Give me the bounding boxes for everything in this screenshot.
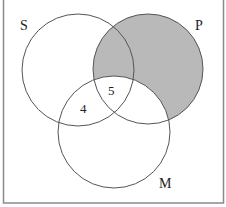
set-label-m: M (159, 176, 172, 191)
region-count-s-m: 4 (80, 101, 87, 116)
venn-diagram: S P M 4 5 (0, 0, 226, 207)
set-label-s: S (20, 18, 28, 33)
region-count-s-p-m: 5 (108, 83, 115, 98)
set-label-p: P (195, 18, 203, 33)
